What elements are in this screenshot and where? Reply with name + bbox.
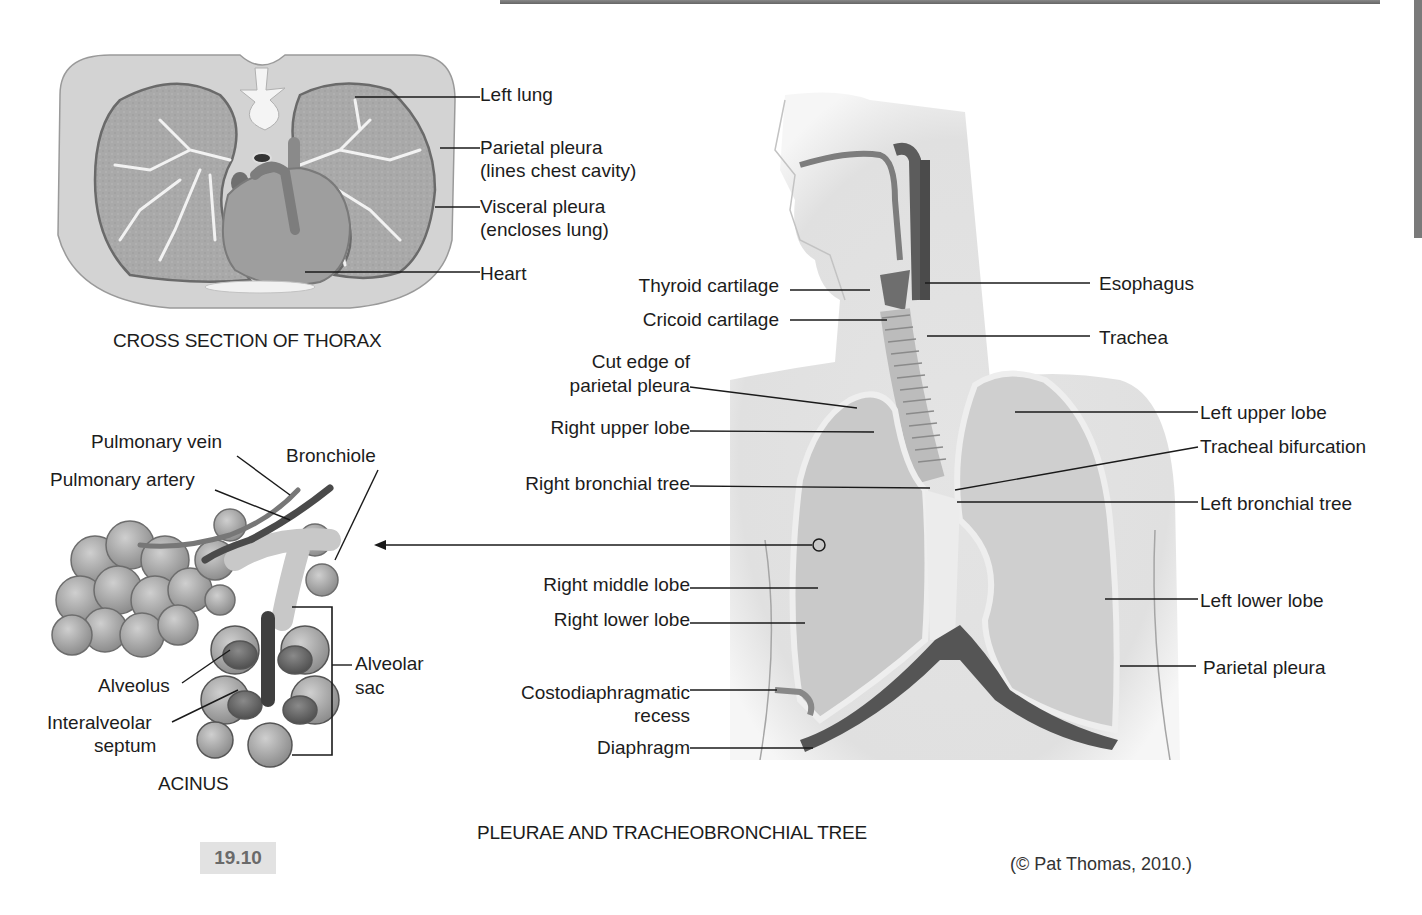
label-cut-edge-parietal: parietal pleura: [570, 374, 690, 397]
label-parietal-pleura-tree: Parietal pleura: [1203, 656, 1326, 679]
label-esophagus: Esophagus: [1099, 272, 1194, 295]
label-left-upper-lobe: Left upper lobe: [1200, 401, 1327, 424]
label-right-middle-lobe: Right middle lobe: [543, 573, 690, 596]
label-right-upper-lobe: Right upper lobe: [551, 416, 690, 439]
label-bronchiole: Bronchiole: [286, 444, 376, 467]
label-trachea: Trachea: [1099, 326, 1168, 349]
label-cut-edge: Cut edge of: [592, 350, 690, 373]
arrowhead-icon: [374, 540, 386, 550]
label-tracheal-bifurcation: Tracheal bifurcation: [1200, 435, 1366, 458]
label-septum: septum: [94, 734, 156, 757]
label-right-bronchial-tree: Right bronchial tree: [525, 472, 690, 495]
label-heart: Heart: [480, 262, 526, 285]
label-thyroid-cartilage: Thyroid cartilage: [639, 274, 779, 297]
label-left-lower-lobe: Left lower lobe: [1200, 589, 1324, 612]
caption-acinus: ACINUS: [158, 773, 229, 795]
label-cricoid-cartilage: Cricoid cartilage: [643, 308, 779, 331]
label-alveolar: Alveolar: [355, 652, 424, 675]
label-parietal-pleura-thorax: Parietal pleura: [480, 136, 603, 159]
label-sac: sac: [355, 676, 385, 699]
figure-number-badge: 19.10: [200, 842, 276, 874]
label-costodiaphragmatic: Costodiaphragmatic: [521, 681, 690, 704]
label-recess: recess: [634, 704, 690, 727]
label-diaphragm: Diaphragm: [597, 736, 690, 759]
label-interalveolar: Interalveolar: [47, 711, 152, 734]
label-left-lung: Left lung: [480, 83, 553, 106]
label-left-bronchial-tree: Left bronchial tree: [1200, 492, 1352, 515]
label-visceral-pleura-note: (encloses lung): [480, 218, 609, 241]
label-pulmonary-artery: Pulmonary artery: [50, 468, 195, 491]
label-parietal-pleura-note: (lines chest cavity): [480, 159, 636, 182]
label-alveolus: Alveolus: [98, 674, 170, 697]
label-pulmonary-vein: Pulmonary vein: [91, 430, 222, 453]
caption-cross-section: CROSS SECTION OF THORAX: [113, 330, 381, 352]
thorax-cross-section: [58, 55, 455, 308]
caption-tracheobronchial: PLEURAE AND TRACHEOBRONCHIAL TREE: [477, 822, 867, 844]
figure-credit: (© Pat Thomas, 2010.): [1010, 854, 1192, 875]
tracheobronchial-illustration: [730, 92, 1180, 760]
label-right-lower-lobe: Right lower lobe: [554, 608, 690, 631]
label-visceral-pleura: Visceral pleura: [480, 195, 605, 218]
